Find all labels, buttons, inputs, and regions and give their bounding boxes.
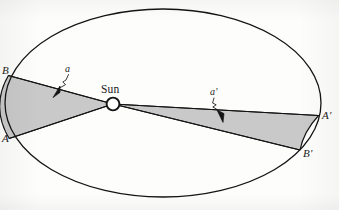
area-a-prime-label: a'	[210, 87, 218, 97]
sun-label: Sun	[101, 84, 120, 96]
point-a-prime-label: A'	[322, 110, 331, 121]
swept-area-a-sector	[0, 76, 113, 139]
point-b-label: B	[2, 65, 9, 76]
point-a-label: A	[2, 133, 9, 144]
orbit-diagram-svg	[0, 0, 339, 210]
area-a-label: a	[65, 64, 70, 74]
point-b-prime-label: B'	[303, 148, 312, 159]
kepler-second-law-figure: Sun B A A' B' a a'	[0, 0, 339, 210]
swept-area-a-prime-sector	[113, 104, 319, 150]
sun-circle-icon	[107, 98, 120, 111]
